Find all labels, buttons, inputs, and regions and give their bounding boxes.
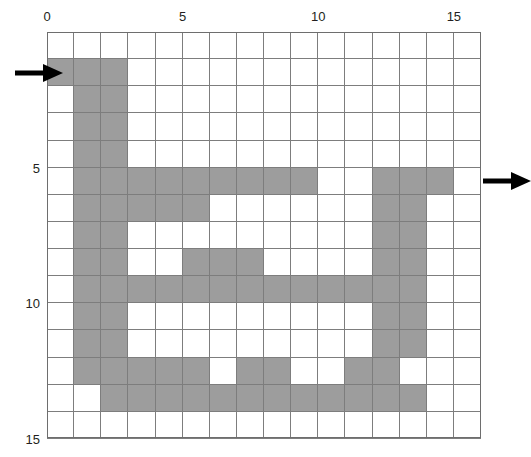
- maze-cell[interactable]: [156, 303, 183, 330]
- maze-cell[interactable]: [454, 32, 481, 59]
- maze-cell[interactable]: [454, 358, 481, 385]
- maze-cell[interactable]: [427, 168, 454, 195]
- maze-cell[interactable]: [427, 358, 454, 385]
- maze-cell[interactable]: [373, 113, 400, 140]
- maze-cell[interactable]: [318, 86, 345, 113]
- maze-cell[interactable]: [101, 276, 128, 303]
- maze-cell[interactable]: [156, 141, 183, 168]
- maze-cell[interactable]: [400, 141, 427, 168]
- maze-cell[interactable]: [400, 303, 427, 330]
- maze-cell[interactable]: [291, 141, 318, 168]
- maze-cell[interactable]: [345, 358, 372, 385]
- maze-cell[interactable]: [156, 385, 183, 412]
- maze-cell[interactable]: [156, 276, 183, 303]
- maze-cell[interactable]: [454, 195, 481, 222]
- maze-cell[interactable]: [291, 358, 318, 385]
- maze-cell[interactable]: [264, 86, 291, 113]
- maze-cell[interactable]: [264, 303, 291, 330]
- maze-cell[interactable]: [318, 195, 345, 222]
- maze-cell[interactable]: [400, 330, 427, 357]
- maze-cell[interactable]: [128, 141, 155, 168]
- maze-cell[interactable]: [454, 168, 481, 195]
- maze-cell[interactable]: [128, 32, 155, 59]
- maze-cell[interactable]: [264, 113, 291, 140]
- maze-cell[interactable]: [400, 385, 427, 412]
- maze-cell[interactable]: [156, 249, 183, 276]
- maze-cell[interactable]: [101, 330, 128, 357]
- maze-cell[interactable]: [237, 385, 264, 412]
- maze-cell[interactable]: [210, 249, 237, 276]
- maze-cell[interactable]: [156, 330, 183, 357]
- maze-cell[interactable]: [427, 195, 454, 222]
- maze-cell[interactable]: [128, 303, 155, 330]
- maze-cell[interactable]: [101, 59, 128, 86]
- maze-cell[interactable]: [318, 141, 345, 168]
- maze-cell[interactable]: [101, 141, 128, 168]
- maze-cell[interactable]: [345, 385, 372, 412]
- maze-cell[interactable]: [183, 358, 210, 385]
- maze-cell[interactable]: [318, 32, 345, 59]
- maze-cell[interactable]: [47, 86, 74, 113]
- maze-cell[interactable]: [373, 195, 400, 222]
- maze-cell[interactable]: [373, 276, 400, 303]
- maze-cell[interactable]: [74, 141, 101, 168]
- maze-cell[interactable]: [264, 32, 291, 59]
- maze-cell[interactable]: [101, 195, 128, 222]
- maze-cell[interactable]: [291, 113, 318, 140]
- maze-cell[interactable]: [74, 222, 101, 249]
- maze-cell[interactable]: [156, 412, 183, 439]
- maze-cell[interactable]: [128, 330, 155, 357]
- maze-cell[interactable]: [400, 195, 427, 222]
- maze-cell[interactable]: [291, 222, 318, 249]
- maze-cell[interactable]: [210, 86, 237, 113]
- maze-cell[interactable]: [291, 32, 318, 59]
- maze-cell[interactable]: [47, 195, 74, 222]
- maze-cell[interactable]: [74, 59, 101, 86]
- maze-cell[interactable]: [291, 195, 318, 222]
- maze-cell[interactable]: [345, 412, 372, 439]
- maze-cell[interactable]: [183, 412, 210, 439]
- maze-cell[interactable]: [345, 330, 372, 357]
- maze-cell[interactable]: [101, 385, 128, 412]
- maze-cell[interactable]: [318, 222, 345, 249]
- maze-cell[interactable]: [101, 168, 128, 195]
- maze-cell[interactable]: [291, 86, 318, 113]
- maze-cell[interactable]: [318, 330, 345, 357]
- maze-cell[interactable]: [318, 303, 345, 330]
- maze-cell[interactable]: [345, 249, 372, 276]
- maze-cell[interactable]: [373, 222, 400, 249]
- maze-cell[interactable]: [427, 59, 454, 86]
- maze-cell[interactable]: [156, 195, 183, 222]
- maze-cell[interactable]: [373, 168, 400, 195]
- maze-cell[interactable]: [237, 59, 264, 86]
- maze-cell[interactable]: [400, 222, 427, 249]
- maze-cell[interactable]: [183, 276, 210, 303]
- maze-cell[interactable]: [47, 385, 74, 412]
- maze-cell[interactable]: [237, 222, 264, 249]
- maze-cell[interactable]: [237, 276, 264, 303]
- maze-cell[interactable]: [210, 168, 237, 195]
- maze-cell[interactable]: [345, 32, 372, 59]
- maze-cell[interactable]: [264, 330, 291, 357]
- maze-cell[interactable]: [427, 276, 454, 303]
- maze-cell[interactable]: [345, 303, 372, 330]
- maze-cell[interactable]: [156, 168, 183, 195]
- maze-cell[interactable]: [47, 222, 74, 249]
- maze-cell[interactable]: [128, 59, 155, 86]
- maze-cell[interactable]: [128, 412, 155, 439]
- maze-cell[interactable]: [427, 303, 454, 330]
- maze-cell[interactable]: [210, 32, 237, 59]
- maze-cell[interactable]: [291, 249, 318, 276]
- maze-cell[interactable]: [318, 59, 345, 86]
- maze-cell[interactable]: [345, 59, 372, 86]
- maze-cell[interactable]: [74, 113, 101, 140]
- maze-cell[interactable]: [74, 385, 101, 412]
- maze-cell[interactable]: [454, 222, 481, 249]
- maze-cell[interactable]: [400, 358, 427, 385]
- maze-cell[interactable]: [128, 276, 155, 303]
- maze-cell[interactable]: [183, 303, 210, 330]
- maze-cell[interactable]: [183, 168, 210, 195]
- maze-cell[interactable]: [237, 303, 264, 330]
- maze-cell[interactable]: [373, 86, 400, 113]
- maze-cell[interactable]: [345, 141, 372, 168]
